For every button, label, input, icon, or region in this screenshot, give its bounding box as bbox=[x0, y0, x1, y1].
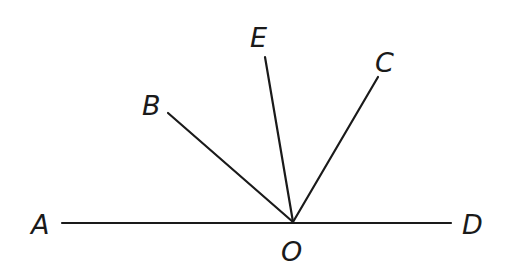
ray-OE bbox=[265, 57, 293, 222]
label-B: B bbox=[142, 90, 161, 121]
label-D: D bbox=[462, 209, 483, 240]
label-A: A bbox=[29, 209, 49, 240]
ray-OB bbox=[168, 113, 293, 222]
label-C: C bbox=[375, 47, 394, 78]
ray-OC bbox=[293, 77, 378, 222]
geometry-diagram: A B E C D O bbox=[0, 0, 506, 274]
label-O: O bbox=[281, 236, 302, 267]
label-E: E bbox=[250, 22, 267, 53]
